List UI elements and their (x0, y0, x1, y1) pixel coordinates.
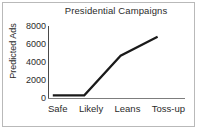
x-tick-label: Safe (48, 103, 68, 114)
y-tick-label: 4000 (2, 58, 46, 67)
x-tick-label: Likely (79, 103, 103, 114)
y-tick-label: 8000 (2, 22, 46, 31)
y-tick-label: 0 (2, 94, 46, 103)
plot-area (48, 26, 185, 98)
y-tick-label: 2000 (2, 76, 46, 85)
x-tick-label: Leans (115, 103, 141, 114)
series-line (48, 26, 185, 98)
chart-title: Presidential Campaigns (48, 5, 184, 16)
x-axis-line (48, 98, 185, 99)
y-tick-label: 6000 (2, 40, 46, 49)
x-axis-tick-labels: Safe Likely Leans Toss-up (48, 103, 185, 117)
x-tick-label: Toss-up (152, 103, 185, 114)
y-axis-tick-labels: 8000 6000 4000 2000 0 (0, 0, 46, 130)
chart-screenshot: Presidential Campaigns Predicted Ads 800… (0, 0, 198, 130)
